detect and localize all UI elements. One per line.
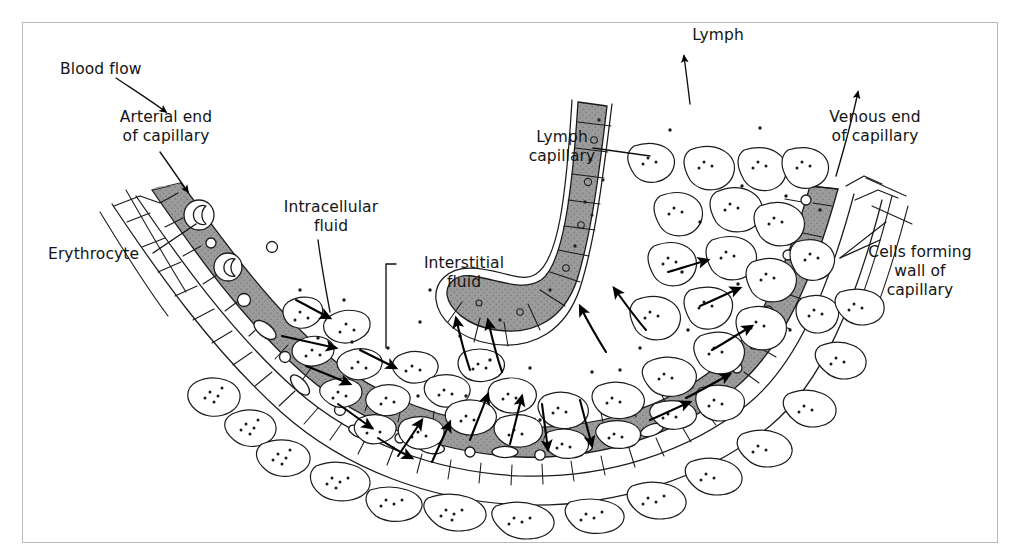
label-arterial-end: Arterial end of capillary: [86, 108, 246, 146]
label-lymph: Lymph: [676, 26, 760, 45]
lymph-arrow: [684, 56, 690, 104]
label-intracellular-fluid: Intracellular fluid: [266, 198, 396, 236]
blood-flow-arrow: [116, 78, 166, 112]
label-erythrocyte: Erythrocyte: [48, 245, 139, 264]
label-blood-flow: Blood flow: [60, 60, 142, 79]
label-cells-forming-wall: Cells forming wall of capillary: [845, 243, 995, 300]
label-venous-end: Venous end of capillary: [812, 108, 938, 146]
capillary-exchange-figure: Blood flow Arterial end of capillary Ery…: [0, 0, 1019, 559]
label-interstitial-fluid: Interstitial fluid: [404, 254, 524, 292]
label-lymph-capillary: Lymph capillary: [517, 128, 607, 166]
